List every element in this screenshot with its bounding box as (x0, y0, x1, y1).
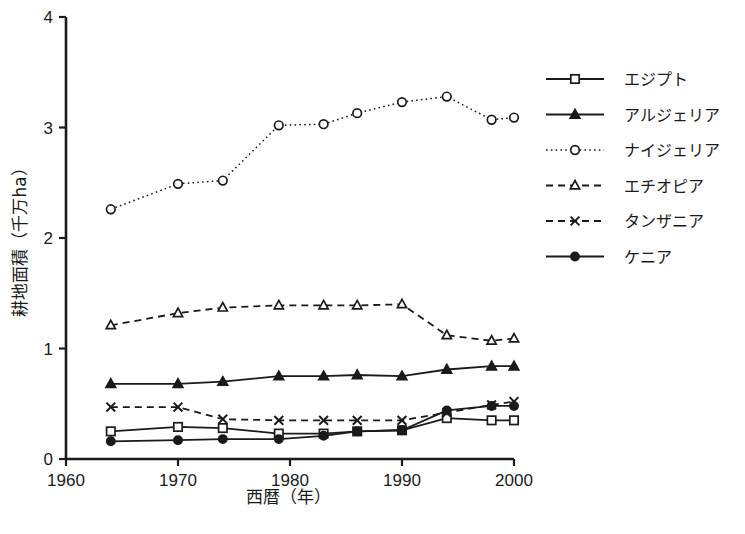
series-line-4 (111, 402, 514, 421)
legend-label-5: ケニア (624, 248, 672, 267)
series-0 (107, 414, 519, 438)
data-point-1-2 (218, 377, 228, 386)
x-axis-title: 西暦（年） (246, 487, 331, 507)
data-point-1-5 (352, 370, 362, 379)
chart-figure: 0123419601970198019902000西暦（年）耕地面積（千万ha）… (0, 0, 745, 534)
y-tick-label-0: 0 (44, 450, 53, 469)
series-line-1 (111, 366, 514, 384)
data-point-3-2 (218, 303, 227, 311)
data-point-1-9 (509, 361, 519, 370)
data-point-5-7 (443, 406, 451, 414)
data-point-1-8 (487, 361, 497, 370)
series-line-0 (111, 418, 514, 433)
series-5 (107, 402, 518, 446)
data-point-5-2 (219, 435, 227, 443)
series-line-2 (111, 97, 514, 210)
legend-label-4: タンザニア (624, 212, 704, 231)
data-point-1-0 (106, 379, 116, 388)
line-chart: 0123419601970198019902000西暦（年）耕地面積（千万ha）… (0, 0, 745, 534)
data-point-3-1 (173, 308, 182, 316)
legend-item-4[interactable]: タンザニア (546, 212, 704, 231)
series-3 (106, 299, 518, 344)
data-point-3-5 (353, 300, 362, 308)
series-line-3 (111, 304, 514, 340)
y-tick-label-1: 1 (44, 340, 53, 359)
data-point-0-1 (174, 423, 182, 431)
series-line-5 (111, 406, 514, 441)
data-point-3-8 (487, 336, 496, 344)
legend-marker-0 (571, 75, 579, 83)
legend-marker-2 (571, 146, 580, 155)
data-point-2-2 (219, 176, 228, 185)
legend-marker-3 (570, 181, 579, 189)
legend-marker-5 (571, 252, 579, 260)
data-point-5-1 (174, 436, 182, 444)
data-point-1-3 (274, 371, 284, 380)
legend-item-1[interactable]: アルジェリア (546, 106, 720, 125)
data-point-3-0 (106, 320, 115, 328)
data-point-5-6 (398, 426, 406, 434)
data-point-2-8 (487, 115, 496, 124)
data-point-0-2 (219, 424, 227, 432)
data-point-1-1 (173, 379, 183, 388)
data-point-1-4 (319, 371, 329, 380)
data-point-5-5 (353, 427, 361, 435)
data-point-2-3 (275, 121, 284, 130)
data-point-3-9 (509, 334, 518, 342)
data-point-2-9 (510, 113, 519, 122)
data-point-2-1 (174, 180, 183, 189)
series-4 (106, 397, 518, 425)
data-point-3-6 (397, 299, 406, 307)
series-1 (106, 361, 519, 387)
legend-label-3: エチオピア (624, 177, 704, 196)
data-point-5-4 (320, 432, 328, 440)
data-point-2-5 (353, 109, 362, 118)
legend-label-2: ナイジェリア (624, 141, 720, 160)
legend-label-1: アルジェリア (624, 106, 720, 125)
data-point-5-0 (107, 437, 115, 445)
legend-marker-1 (570, 110, 580, 119)
x-tick-label-1990: 1990 (383, 471, 421, 490)
y-axis-title: 耕地面積（千万ha） (10, 159, 30, 316)
data-point-5-8 (488, 402, 496, 410)
x-tick-label-1960: 1960 (47, 471, 85, 490)
data-point-5-9 (510, 402, 518, 410)
y-tick-label-4: 4 (44, 8, 53, 27)
data-point-1-6 (397, 371, 407, 380)
y-tick-label-3: 3 (44, 119, 53, 138)
x-tick-label-2000: 2000 (495, 471, 533, 490)
series-2 (107, 92, 519, 213)
legend-item-0[interactable]: エジプト (546, 70, 688, 89)
data-point-3-7 (442, 330, 451, 338)
x-tick-label-1970: 1970 (159, 471, 197, 490)
data-point-2-4 (319, 120, 328, 129)
data-point-2-6 (398, 98, 407, 107)
y-tick-label-2: 2 (44, 229, 53, 248)
data-point-0-0 (107, 427, 115, 435)
data-point-5-3 (275, 435, 283, 443)
legend-label-0: エジプト (624, 70, 688, 89)
data-point-1-7 (442, 364, 452, 373)
legend-item-5[interactable]: ケニア (546, 248, 672, 267)
data-point-3-3 (274, 300, 283, 308)
legend-item-3[interactable]: エチオピア (546, 177, 704, 196)
data-point-3-4 (319, 300, 328, 308)
legend-item-2[interactable]: ナイジェリア (546, 141, 720, 160)
data-point-0-9 (510, 416, 518, 424)
data-point-2-7 (443, 92, 452, 101)
data-point-0-8 (487, 416, 495, 424)
data-point-2-0 (107, 205, 116, 214)
